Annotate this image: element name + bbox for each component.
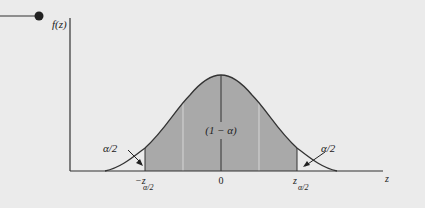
right-tail-label: α/2 — [321, 142, 336, 154]
x-axis-label: z — [384, 173, 389, 184]
right-arrowhead-icon — [303, 161, 310, 167]
right-critical-tick-main: z — [292, 175, 297, 186]
pointer-dot — [35, 12, 44, 21]
left-arrowhead-icon — [136, 159, 143, 166]
normal-distribution-diagram: f(z) z (1 − α) α/2 α/2 −z α/2 0 z α/2 — [0, 0, 425, 208]
left-critical-tick-sub: α/2 — [143, 183, 153, 192]
center-probability-label: (1 − α) — [205, 124, 237, 137]
center-tick: 0 — [219, 175, 224, 186]
right-critical-tick-sub: α/2 — [298, 183, 308, 192]
left-tail-label: α/2 — [103, 142, 118, 154]
y-axis-label: f(z) — [52, 18, 67, 31]
